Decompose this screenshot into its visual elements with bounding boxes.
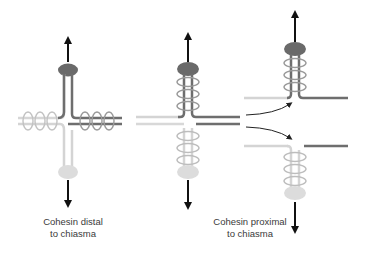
- caption-distal-line2: to chiasma: [28, 228, 118, 240]
- panel-distal: [18, 40, 122, 204]
- curved-arrow-down-icon: [246, 127, 290, 138]
- centromere-dark: [177, 62, 199, 76]
- centromere-light: [284, 186, 306, 200]
- caption-distal-line1: Cohesin distal: [28, 216, 118, 228]
- cohesin-rings-lower: [177, 132, 199, 165]
- transition-arrows: [246, 104, 290, 138]
- cohesin-rings-left: [23, 112, 57, 130]
- chromatid-light-1: [18, 124, 64, 168]
- centromere-light: [177, 165, 199, 179]
- caption-proximal-line2: to chiasma: [205, 228, 295, 240]
- centromere-light: [58, 165, 78, 179]
- curved-arrow-up-icon: [246, 104, 290, 115]
- chromatid-dark-1: [18, 74, 64, 118]
- centromere-dark: [58, 64, 78, 77]
- cohesin-rings-right: [80, 112, 114, 130]
- caption-distal: Cohesin distal to chiasma: [28, 216, 118, 240]
- cohesin-rings-lower: [284, 153, 306, 186]
- cohesin-rings-upper: [177, 78, 199, 111]
- caption-proximal: Cohesin proximal to chiasma: [205, 216, 295, 240]
- panel-proximal-before: [136, 36, 240, 206]
- centromere-dark: [284, 42, 306, 56]
- caption-proximal-line1: Cohesin proximal: [205, 216, 295, 228]
- cohesin-rings-upper: [284, 59, 306, 92]
- panel-proximal-after: [244, 14, 348, 230]
